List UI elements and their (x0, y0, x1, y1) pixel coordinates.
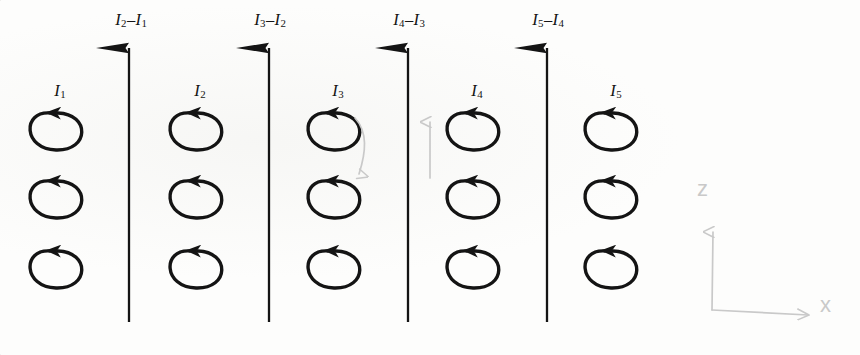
symbol-I: I (393, 10, 399, 29)
subscript: 1 (60, 88, 65, 100)
subscript: 4 (477, 88, 482, 100)
loop-label-current-2: I2 (194, 83, 205, 100)
current-loop (585, 251, 637, 288)
current-loop (308, 251, 360, 288)
loop-label-current-4: I4 (471, 83, 482, 100)
subscript: 4 (399, 17, 404, 29)
loop-column-1 (30, 113, 82, 288)
loop-column-3 (308, 113, 360, 288)
current-loop-grid (30, 113, 637, 288)
current-loop (170, 113, 222, 150)
top-label-diff-5-4: I5–I4 (532, 12, 564, 29)
subscript: 1 (141, 17, 146, 29)
subscript: 2 (200, 88, 205, 100)
subscript: 5 (616, 88, 621, 100)
symbol-I: I (471, 81, 477, 100)
loop-label-current-1: I1 (54, 83, 65, 100)
current-loop (170, 181, 222, 218)
current-loop (585, 181, 637, 218)
symbol-I: I (332, 81, 338, 100)
current-loop (447, 181, 499, 218)
minus-sign: – (127, 10, 135, 29)
subscript: 3 (260, 17, 265, 29)
current-loop (30, 113, 82, 150)
pencil-annotation-group (355, 118, 808, 315)
symbol-I: I (254, 10, 260, 29)
subscript: 3 (338, 88, 343, 100)
top-label-diff-2-1: I2–I1 (115, 12, 147, 29)
minus-sign: – (266, 10, 274, 29)
current-loop (170, 251, 222, 288)
pencil-x-axis-label: x (820, 294, 831, 316)
current-loop (308, 113, 360, 150)
subscript: 2 (121, 17, 126, 29)
minus-sign: – (544, 10, 552, 29)
top-label-diff-3-2: I3–I2 (254, 12, 286, 29)
current-loop (30, 181, 82, 218)
loop-column-4 (447, 113, 499, 288)
pencil-z-axis (712, 232, 713, 310)
subscript: 3 (419, 17, 424, 29)
symbol-I: I (610, 81, 616, 100)
symbol-I: I (115, 10, 121, 29)
loop-column-2 (170, 113, 222, 288)
loop-label-current-5: I5 (610, 83, 621, 100)
physics-figure: I2–I1 I3–I2 I4–I3 I5–I4 I1 I2 I3 I4 I5 z… (0, 0, 860, 355)
current-loop (30, 251, 82, 288)
diagram-canvas (0, 0, 860, 355)
pencil-z-axis-label: z (697, 178, 708, 200)
current-loop (585, 113, 637, 150)
symbol-I: I (194, 81, 200, 100)
current-loop (447, 251, 499, 288)
minus-sign: – (405, 10, 413, 29)
loop-label-current-3: I3 (332, 83, 343, 100)
current-loop (308, 181, 360, 218)
loop-column-5 (585, 113, 637, 288)
subscript: 5 (538, 17, 543, 29)
symbol-I: I (54, 81, 60, 100)
subscript: 2 (280, 17, 285, 29)
symbol-I: I (532, 10, 538, 29)
subscript: 4 (558, 17, 563, 29)
pencil-x-axis (712, 310, 808, 315)
top-label-diff-4-3: I4–I3 (393, 12, 425, 29)
current-loop (447, 113, 499, 150)
